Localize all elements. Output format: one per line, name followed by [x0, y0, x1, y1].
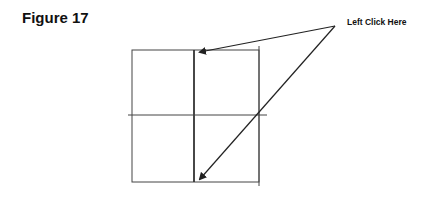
- grid-diagram: [0, 0, 426, 197]
- arrow-to-bottom-handle: [200, 26, 335, 179]
- outer-box: [132, 50, 259, 182]
